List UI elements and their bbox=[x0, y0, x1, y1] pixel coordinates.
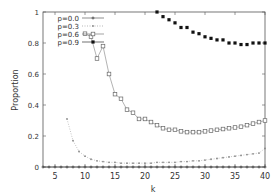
marker-plus bbox=[168, 166, 171, 169]
marker-square-open bbox=[149, 120, 153, 124]
marker-dot bbox=[92, 25, 94, 27]
marker-square-open bbox=[179, 130, 183, 134]
marker-square-open bbox=[173, 128, 177, 132]
marker-plus bbox=[92, 17, 95, 20]
marker-plus bbox=[78, 166, 81, 169]
marker-dot bbox=[198, 160, 200, 162]
marker-plus bbox=[228, 166, 231, 169]
marker-plus bbox=[216, 166, 219, 169]
marker-square-open bbox=[239, 125, 243, 129]
marker-dot bbox=[180, 161, 182, 163]
marker-plus bbox=[210, 166, 213, 169]
marker-dot bbox=[252, 153, 254, 155]
marker-square-filled bbox=[233, 41, 236, 44]
marker-square-filled bbox=[179, 26, 182, 29]
x-tick-label: 30 bbox=[200, 172, 210, 181]
marker-dot bbox=[258, 152, 260, 154]
marker-dot bbox=[174, 161, 176, 163]
marker-square-filled bbox=[239, 43, 242, 46]
y-axis-label: Proportion bbox=[11, 69, 20, 110]
marker-plus bbox=[72, 166, 75, 169]
marker-dot bbox=[228, 156, 230, 158]
marker-dot bbox=[246, 154, 248, 156]
y-tick-label: 0.8 bbox=[28, 40, 39, 48]
marker-square-open bbox=[233, 126, 237, 130]
marker-dot bbox=[150, 162, 152, 164]
marker-square-open bbox=[137, 117, 141, 121]
series-p-0-9 bbox=[155, 10, 266, 46]
marker-dot bbox=[102, 161, 104, 163]
y-tick-label: 0.2 bbox=[28, 133, 39, 141]
marker-dot bbox=[162, 161, 164, 163]
marker-square-filled bbox=[185, 26, 188, 29]
marker-square-open bbox=[221, 127, 225, 131]
marker-plus bbox=[48, 166, 51, 169]
marker-square-open bbox=[251, 122, 255, 126]
marker-plus bbox=[258, 166, 261, 169]
marker-square-open bbox=[101, 44, 105, 48]
y-tick-label: 0.4 bbox=[28, 102, 40, 110]
marker-square-open bbox=[143, 117, 147, 121]
x-axis-label: k bbox=[151, 185, 156, 194]
marker-square-filled bbox=[251, 41, 254, 44]
y-tick-label: 1 bbox=[35, 9, 39, 17]
marker-square-open bbox=[227, 126, 231, 130]
marker-dot bbox=[114, 161, 116, 163]
marker-dot bbox=[240, 154, 242, 156]
x-tick-label: 35 bbox=[230, 172, 240, 181]
marker-plus bbox=[144, 166, 147, 169]
y-tick-label: 0 bbox=[35, 164, 39, 172]
marker-dot bbox=[204, 159, 206, 161]
marker-square-filled bbox=[263, 41, 266, 44]
marker-plus bbox=[252, 166, 255, 169]
marker-dot bbox=[216, 158, 218, 160]
x-tick-label: 5 bbox=[52, 172, 57, 181]
marker-plus bbox=[222, 166, 225, 169]
x-tick-label: 40 bbox=[260, 172, 270, 181]
marker-dot bbox=[120, 162, 122, 164]
x-tick-label: 10 bbox=[80, 172, 90, 181]
marker-square-filled bbox=[167, 18, 170, 21]
marker-plus bbox=[240, 166, 243, 169]
marker-plus bbox=[204, 166, 207, 169]
marker-plus bbox=[90, 166, 93, 169]
marker-square-filled bbox=[221, 38, 224, 41]
marker-plus bbox=[54, 166, 57, 169]
marker-square-open bbox=[131, 111, 135, 115]
legend-label: p=0.3 bbox=[58, 23, 79, 31]
marker-square-open bbox=[161, 126, 165, 130]
line-chart: 51015202530354000.20.40.60.81 p=0.0p=0.3… bbox=[0, 0, 279, 195]
marker-plus bbox=[174, 166, 177, 169]
marker-square-open bbox=[263, 119, 267, 123]
marker-square-open bbox=[95, 57, 99, 61]
marker-dot bbox=[108, 161, 110, 163]
marker-dot bbox=[222, 157, 224, 159]
marker-plus bbox=[96, 166, 99, 169]
marker-square-open bbox=[203, 130, 207, 134]
series-p-0-6 bbox=[83, 32, 267, 134]
marker-dot bbox=[264, 148, 266, 150]
marker-plus bbox=[192, 166, 195, 169]
marker-square-open bbox=[167, 128, 171, 132]
marker-plus bbox=[138, 166, 141, 169]
marker-square-open bbox=[191, 130, 195, 134]
marker-square-filled bbox=[257, 41, 260, 44]
marker-dot bbox=[156, 161, 158, 163]
marker-square-filled bbox=[227, 41, 230, 44]
legend: p=0.0p=0.3p=0.6p=0.9 bbox=[58, 15, 104, 47]
marker-square-open bbox=[155, 123, 159, 127]
marker-plus bbox=[246, 166, 249, 169]
marker-plus bbox=[120, 166, 123, 169]
marker-dot bbox=[96, 160, 98, 162]
marker-square-open bbox=[215, 128, 219, 132]
marker-square-open bbox=[125, 108, 129, 112]
marker-dot bbox=[84, 155, 86, 157]
marker-square-filled bbox=[203, 35, 206, 38]
marker-plus bbox=[198, 166, 201, 169]
marker-plus bbox=[264, 166, 267, 169]
marker-square-filled bbox=[155, 10, 158, 13]
marker-plus bbox=[102, 166, 105, 169]
marker-plus bbox=[60, 166, 63, 169]
marker-plus bbox=[84, 166, 87, 169]
series-p-0-0 bbox=[42, 166, 267, 169]
